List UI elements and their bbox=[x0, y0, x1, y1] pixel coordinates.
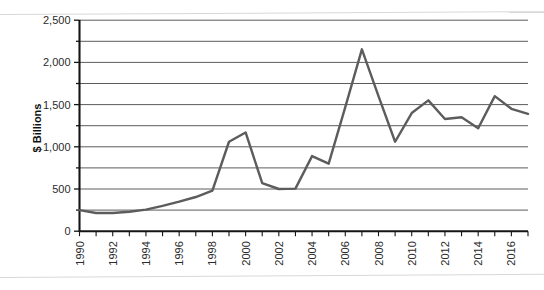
x-axis-tick-label: 2012 bbox=[439, 241, 451, 265]
y-axis-tick-label: 1,000 bbox=[43, 141, 71, 153]
x-axis-tick-label: 2004 bbox=[306, 241, 318, 265]
y-axis-tick-label: 1,500 bbox=[43, 99, 71, 111]
x-axis-tick-label: 1992 bbox=[107, 241, 119, 265]
x-axis-tick-label: 1998 bbox=[206, 241, 218, 265]
x-axis-tick-label: 1996 bbox=[173, 241, 185, 265]
y-axis-tick-label: 0 bbox=[64, 225, 70, 237]
gridlines bbox=[80, 20, 529, 210]
chart-page: 05001,0001,5002,0002,500 199019921994199… bbox=[0, 0, 544, 290]
x-axis-tick-label: 1990 bbox=[74, 241, 86, 265]
x-axis-tick-labels: 1990199219941996199820002002200420062008… bbox=[74, 241, 518, 265]
chart-canvas: 05001,0001,5002,0002,500 199019921994199… bbox=[0, 0, 544, 290]
y-axis-title: $ Billions bbox=[31, 104, 43, 153]
x-axis-tick-label: 2002 bbox=[273, 241, 285, 265]
x-axis-tick-label: 2000 bbox=[240, 241, 252, 265]
x-axis-tick-label: 2016 bbox=[505, 241, 517, 265]
data-series-line bbox=[80, 49, 529, 213]
line-chart: 05001,0001,5002,0002,500 199019921994199… bbox=[0, 0, 544, 290]
y-axis-tick-label: 2,500 bbox=[43, 14, 71, 26]
y-axis-title-label: $ Billions bbox=[31, 104, 43, 153]
x-axis-tick-label: 1994 bbox=[140, 241, 152, 265]
y-axis-tick-label: 2,000 bbox=[43, 56, 71, 68]
x-axis-tick-label: 2010 bbox=[406, 241, 418, 265]
y-axis-tick-label: 500 bbox=[52, 183, 70, 195]
x-axis-tick-label: 2006 bbox=[339, 241, 351, 265]
y-axis-tick-labels: 05001,0001,5002,0002,500 bbox=[43, 14, 71, 237]
x-axis-tick-label: 2014 bbox=[472, 241, 484, 265]
x-axis-tick-label: 2008 bbox=[373, 241, 385, 265]
